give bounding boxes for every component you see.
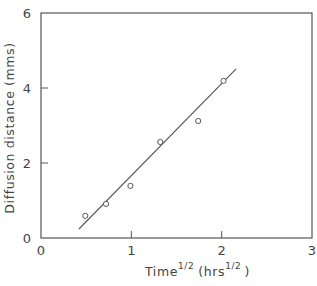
data-point: [128, 183, 133, 188]
x-axis-label: Time1/2(hrs1/2): [144, 261, 250, 279]
x-tick-label: 0: [37, 243, 45, 258]
data-points: [83, 78, 226, 218]
y-axis-label: Diffusion distance (mms): [2, 42, 17, 213]
y-tick-label: 4: [23, 81, 31, 96]
plot-border: [41, 13, 312, 238]
fit-line-segment: [79, 69, 236, 229]
data-point: [221, 78, 226, 83]
x-tick-label: 3: [308, 243, 316, 258]
data-point: [83, 213, 88, 218]
data-point: [196, 118, 201, 123]
plot-frame: [41, 13, 312, 238]
x-tick-label: 1: [127, 243, 135, 258]
y-tick-label: 2: [23, 156, 31, 171]
x-tick-label: 2: [218, 243, 226, 258]
fit-line: [79, 69, 236, 229]
y-tick-label: 0: [23, 231, 31, 246]
chart: 01230246 Diffusion distance (mms) Time1/…: [0, 0, 317, 286]
y-tick-label: 6: [23, 6, 31, 21]
data-point: [158, 139, 163, 144]
data-point: [103, 201, 108, 206]
tick-labels: 01230246: [23, 6, 316, 258]
